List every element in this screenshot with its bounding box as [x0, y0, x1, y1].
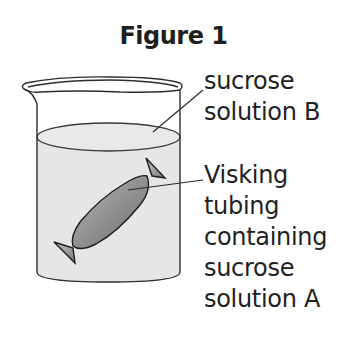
label-line: containing: [204, 222, 327, 253]
pointer-solution-b: [153, 90, 203, 132]
label-solution-b: sucrose solution B: [204, 66, 320, 128]
label-line: solution B: [204, 97, 320, 128]
label-visking-tubing: Visking tubing containing sucrose soluti…: [204, 160, 327, 315]
label-line: tubing: [204, 191, 327, 222]
label-line: sucrose: [204, 66, 320, 97]
label-line: Visking: [204, 160, 327, 191]
label-line: sucrose: [204, 253, 327, 284]
label-line: solution A: [204, 284, 327, 315]
